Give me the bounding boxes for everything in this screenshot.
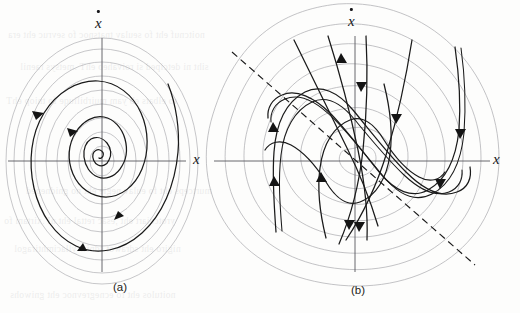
- phase-portrait-figure: noitcnuf eht fo seulav tnatsnoc fo sevru…: [0, 0, 520, 313]
- overdot-icon: [350, 8, 353, 11]
- panel-a-y-axis-label: x: [95, 15, 102, 32]
- arrowhead: [336, 53, 347, 63]
- overdot-icon: [97, 10, 100, 13]
- arrowhead: [356, 82, 367, 92]
- y-axis-label-text: x: [348, 13, 355, 29]
- panel-b-caption-text: (b): [351, 284, 365, 296]
- arrowhead: [268, 122, 279, 132]
- arrowhead: [354, 222, 365, 232]
- panel-a-x-axis-label: x: [193, 151, 200, 168]
- panel-a-plot: [0, 0, 232, 275]
- arrowhead: [269, 176, 280, 186]
- ghost-line: noitulos eht fo ecnegrevnoc eht gniwohs: [10, 286, 176, 305]
- spiral-trajectory-a: [31, 81, 178, 251]
- panel-a-stable-spiral: x x (a): [0, 0, 232, 275]
- arrowhead: [391, 114, 402, 124]
- panel-a-caption-text: (a): [113, 281, 127, 293]
- panel-b-plot: [216, 0, 520, 275]
- panel-b-x-axis-label: x: [493, 151, 500, 168]
- y-axis-label-text: x: [95, 15, 102, 31]
- panel-b-y-axis-label: x: [348, 13, 355, 30]
- trajectories-b: [265, 36, 470, 244]
- panel-b-saddle-point: x x (b): [216, 0, 520, 275]
- dashed-separatrix-b: [232, 52, 475, 265]
- panel-a-caption: (a): [113, 281, 127, 293]
- contour-curves-b: [206, 4, 499, 286]
- panel-b-caption: (b): [351, 284, 365, 296]
- x-axis-label-text: x: [193, 151, 200, 167]
- x-axis-label-text: x: [493, 151, 500, 167]
